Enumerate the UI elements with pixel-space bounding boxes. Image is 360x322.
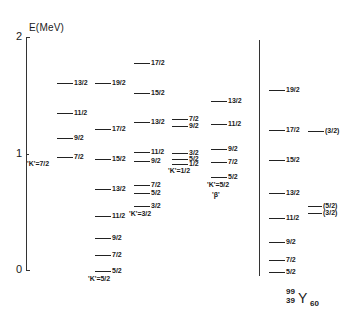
band-k-label: 'β' [212,191,220,199]
energy-level-line [172,159,188,160]
energy-level-line [269,272,285,273]
y-tick-mark-1 [26,154,29,155]
energy-level-line [57,138,73,139]
energy-level-line [308,206,322,207]
spin-label: 9/2 [74,134,84,142]
spin-label: 11/2 [112,212,125,220]
spin-label: 13/2 [228,97,242,105]
energy-level-line [308,131,324,132]
spin-label: 3/2 [189,149,199,157]
neutron-number: 60 [310,299,319,308]
energy-level-line [134,161,150,162]
energy-level-line [95,238,111,239]
spin-label: 7/2 [74,153,84,161]
spin-label: 9/2 [151,157,161,165]
y-tick-0: 0 [16,263,22,275]
energy-level-line [211,149,227,150]
y-tick-mark-2 [26,37,30,38]
nuclide-label: 99 39 Y 60 [286,287,346,313]
spin-label: 11/2 [286,214,299,222]
energy-level-line [95,83,111,84]
energy-level-line [95,129,111,130]
spin-label: 15/2 [286,156,300,164]
spin-label: 13/2 [74,79,88,87]
spin-label: 5/2 [286,268,296,276]
spin-label: 17/2 [151,59,165,67]
energy-level-line [211,101,227,102]
spin-label: 15/2 [112,155,126,163]
energy-level-line [269,90,285,91]
spin-label: 9/2 [189,122,199,130]
spin-label: 9/2 [112,234,122,242]
energy-level-line [269,260,285,261]
spin-label: 9/2 [228,145,238,153]
energy-level-line [57,157,73,158]
spin-label: 17/2 [286,126,300,134]
energy-level-line [95,271,111,272]
experiment-separator-line [259,40,260,276]
energy-level-line [269,242,285,243]
spin-label: 5/2 [112,267,122,275]
spin-label: 9/2 [286,238,296,246]
energy-level-line [95,255,111,256]
energy-level-line [172,153,188,154]
energy-level-line [172,164,188,165]
band-k-label: 'K'=5/2 [88,275,110,283]
y-tick-2: 2 [16,30,22,42]
spin-label: 7/2 [151,181,161,189]
energy-level-line [269,160,285,161]
spin-label: 7/2 [286,256,296,264]
element-symbol: Y [298,290,307,306]
energy-level-line [95,216,111,217]
spin-label: 5/2 [151,189,161,197]
energy-level-line [172,119,188,120]
energy-level-line [134,93,150,94]
energy-level-line [95,189,111,190]
spin-label: 3/2 [151,202,161,210]
energy-level-line [269,130,285,131]
band-k-label: 'K'=1/2 [168,167,190,175]
spin-label: 13/2 [286,189,300,197]
spin-label: 7/2 [112,251,122,259]
energy-level-line [172,126,188,127]
level-scheme-diagram: E(MeV) 2 1 0 7/29/211/213/25/27/29/211/2… [0,0,360,322]
y-tick-1: 1 [16,147,22,159]
mass-number: 99 [286,287,295,296]
energy-level-line [134,63,150,64]
energy-level-line [134,206,150,207]
energy-level-line [308,213,322,214]
spin-label: 13/2 [112,185,126,193]
energy-level-line [269,193,285,194]
band-k-label: 'K'=5/2 [207,181,229,189]
energy-level-line [57,113,73,114]
spin-label: 11/2 [228,120,241,128]
spin-label: 11/2 [151,148,164,156]
spin-label: 17/2 [112,125,126,133]
energy-level-line [95,159,111,160]
energy-level-line [134,185,150,186]
y-axis-title: E(MeV) [29,22,64,33]
spin-label: 13/2 [151,118,165,126]
spin-label: (3/2) [325,127,339,135]
energy-level-line [211,177,227,178]
band-k-label: 'K'=3/2 [129,210,151,218]
energy-level-line [211,124,227,125]
y-tick-mark-0 [26,270,30,271]
spin-label: 15/2 [151,89,165,97]
spin-label: 19/2 [112,79,126,87]
energy-level-line [134,193,150,194]
energy-level-line [269,218,285,219]
energy-level-line [211,162,227,163]
spin-label: 11/2 [74,109,87,117]
spin-label: 7/2 [228,158,238,166]
spin-label: (3/2) [323,209,337,217]
spin-label: 5/2 [228,173,238,181]
band-k-label: 'K'=7/2 [27,160,49,168]
atomic-number: 39 [286,296,295,305]
energy-level-line [134,122,150,123]
spin-label: 7/2 [189,115,199,123]
energy-level-line [134,152,150,153]
spin-label: 19/2 [286,86,300,94]
energy-level-line [57,83,73,84]
